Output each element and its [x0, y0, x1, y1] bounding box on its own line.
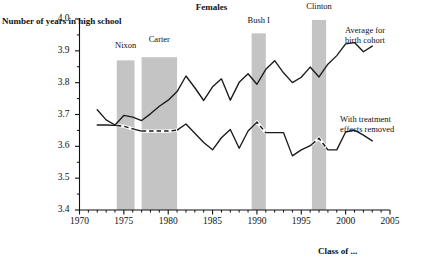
- band-label-bush-i: Bush I: [229, 16, 289, 26]
- band-carter: [142, 57, 177, 210]
- x-tick-label: 1980: [148, 216, 188, 227]
- y-tick-label: 4.0: [46, 13, 70, 24]
- y-tick-label: 3.5: [46, 172, 70, 183]
- y-tick-label: 3.6: [46, 140, 70, 151]
- y-tick-label: 3.4: [46, 204, 70, 215]
- band-clinton: [312, 20, 326, 210]
- band-label-clinton: Clinton: [289, 2, 349, 12]
- x-tick-label: 2000: [326, 216, 366, 227]
- x-tick-label: 1985: [193, 216, 233, 227]
- band-label-carter: Carter: [129, 35, 189, 45]
- series-label-1: With treatmenteffects removed: [340, 115, 423, 134]
- x-tick-label: 1975: [104, 216, 144, 227]
- series-line-0: [97, 43, 372, 125]
- y-tick-label: 3.8: [46, 77, 70, 88]
- series-label-line-2: effects removed: [340, 125, 423, 135]
- y-tick-label: 3.7: [46, 109, 70, 120]
- x-tick-label: 1970: [60, 216, 100, 227]
- band-nixon: [117, 60, 135, 210]
- x-tick-label: 2005: [370, 216, 410, 227]
- series-label-line-2: birth cohort: [345, 36, 423, 46]
- band-bush-i: [252, 33, 266, 210]
- x-tick-label: 1995: [281, 216, 321, 227]
- y-tick-label: 3.9: [46, 45, 70, 56]
- x-tick-label: 1990: [237, 216, 277, 227]
- chart-container: Females Number of years in high school C…: [0, 0, 423, 264]
- series-label-0: Average forbirth cohort: [345, 26, 423, 45]
- series-line-1: [97, 122, 372, 156]
